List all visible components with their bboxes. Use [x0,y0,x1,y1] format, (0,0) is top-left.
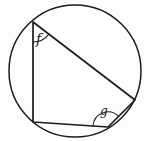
circumscribed-circle [9,5,141,137]
inscribed-quadrilateral [33,22,135,127]
circle-diagram: f g [0,0,149,141]
angle-label-f: f [35,31,44,47]
geometry-figure: f g [0,0,149,141]
angle-label-g: g [100,104,108,118]
